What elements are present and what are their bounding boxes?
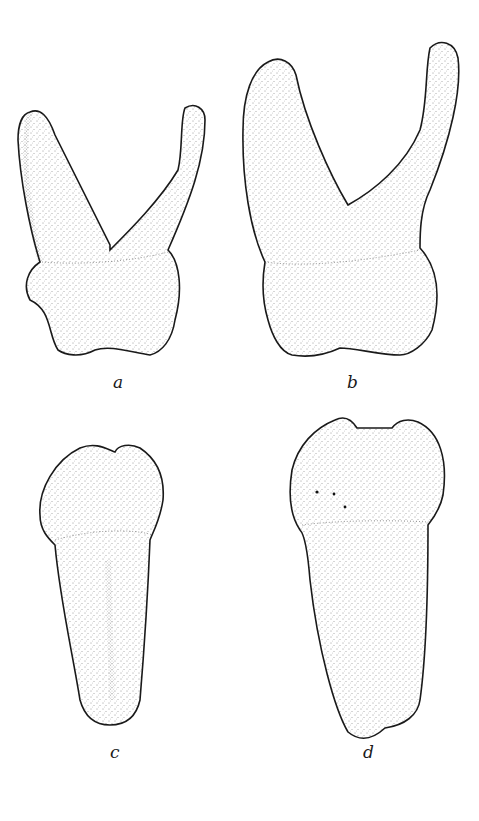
tooth-illustration-plate: a b c d — [0, 0, 479, 821]
tooth-a-drawing — [18, 106, 205, 355]
panel-label-a: a — [113, 372, 123, 392]
panel-label-d: d — [363, 742, 374, 762]
stipple-drawings — [0, 0, 479, 821]
tooth-c-drawing — [40, 445, 163, 725]
panel-label-b: b — [347, 372, 358, 392]
tooth-d-drawing — [290, 418, 444, 738]
tooth-b-drawing — [243, 43, 459, 357]
panel-label-c: c — [110, 742, 120, 762]
